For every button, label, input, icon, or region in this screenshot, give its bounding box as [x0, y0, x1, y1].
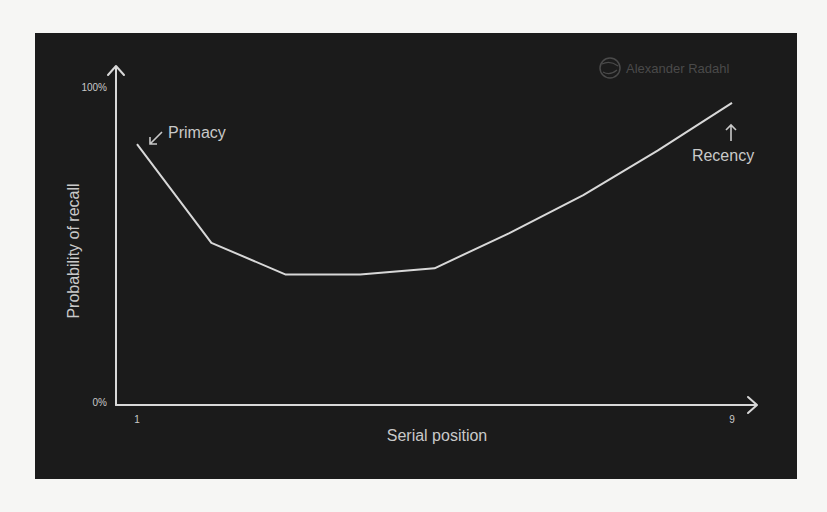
watermark: Alexander Radahl: [600, 58, 729, 78]
watermark-text: Alexander Radahl: [626, 61, 729, 76]
x-axis-title: Serial position: [387, 427, 488, 444]
arrow-up-icon: [726, 125, 736, 141]
primacy-annotation: Primacy: [150, 124, 226, 144]
recency-annotation: Recency: [692, 125, 754, 164]
primacy-label: Primacy: [168, 124, 226, 141]
x-tick-1: 1: [134, 414, 140, 425]
recency-label: Recency: [692, 147, 754, 164]
axes: [108, 66, 757, 413]
x-tick-9: 9: [729, 414, 735, 425]
globe-icon: [600, 58, 620, 78]
y-tick-100: 100%: [81, 82, 107, 93]
y-tick-0: 0%: [93, 397, 108, 408]
recall-curve: [137, 103, 732, 275]
y-axis-title: Probability of recall: [65, 183, 82, 318]
arrow-down-left-icon: [150, 132, 162, 144]
serial-position-chart: Alexander Radahl 100% 0% 1 9 Serial posi…: [0, 0, 827, 512]
